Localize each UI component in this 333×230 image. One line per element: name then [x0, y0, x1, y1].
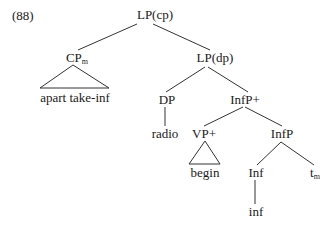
node-cp-m: CPm [66, 51, 88, 69]
node-infp-plus: InfP+ [230, 93, 260, 107]
node-trace-m: tm [310, 166, 320, 184]
node-lp-cp: LP(cp) [137, 8, 173, 22]
node-lp-dp: LP(dp) [197, 51, 234, 65]
tree-edges [0, 0, 333, 230]
node-begin: begin [191, 166, 220, 180]
node-inf-leaf: inf [249, 205, 263, 219]
node-infp: InfP [271, 127, 293, 141]
node-dp: DP [159, 93, 176, 107]
node-vp-plus: VP+ [192, 127, 216, 141]
node-inf: Inf [248, 166, 263, 180]
node-radio: radio [152, 127, 179, 141]
node-apart-take-inf: apart take-inf [40, 91, 110, 105]
